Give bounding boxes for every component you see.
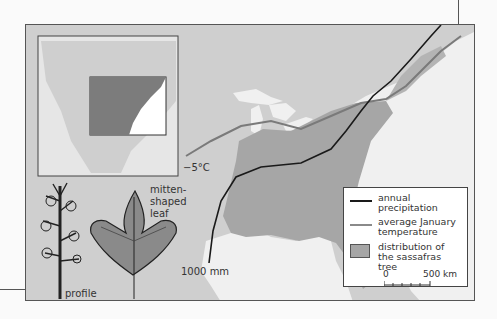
gray-box-icon bbox=[350, 242, 372, 256]
scale-end: 500 km bbox=[423, 269, 457, 279]
leaf-label-line-3: leaf bbox=[150, 208, 169, 219]
map-frame: −5°C 1000 mm mitten- shaped leaf profile… bbox=[25, 24, 475, 301]
temperature-label: −5°C bbox=[183, 162, 210, 173]
legend-item-temperature: average Januarytemperature bbox=[350, 217, 463, 237]
frame-connector-horizontal bbox=[0, 289, 25, 290]
legend-label: temperature bbox=[378, 227, 463, 237]
legend-item-precipitation: annualprecipitation bbox=[350, 193, 463, 213]
black-line-icon bbox=[350, 193, 372, 207]
scale-ruler-icon bbox=[384, 281, 434, 287]
legend-label: precipitation bbox=[378, 203, 463, 213]
leaf-label-line-1: mitten- bbox=[150, 184, 187, 195]
scale-bar: 0 500 km bbox=[383, 271, 463, 285]
leaf-label-line-2: shaped bbox=[150, 196, 187, 207]
scale-start: 0 bbox=[383, 269, 389, 279]
gray-line-icon bbox=[350, 217, 372, 231]
legend-item-distribution: distribution ofthe sassafras tree bbox=[350, 242, 463, 272]
frame-connector-vertical bbox=[458, 0, 459, 24]
profile-label: profile bbox=[65, 288, 97, 299]
map-legend: annualprecipitation average Januarytempe… bbox=[343, 187, 468, 287]
precipitation-label: 1000 mm bbox=[181, 266, 229, 277]
